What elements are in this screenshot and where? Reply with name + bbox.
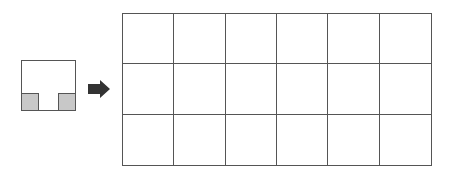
shaded-notch-bottom-right (58, 93, 75, 110)
grid-cell (123, 64, 174, 114)
grid-cell (277, 64, 328, 114)
grid-cell (174, 64, 225, 114)
grid-cell (277, 14, 328, 64)
grid-cell (123, 14, 174, 64)
grid-cell (174, 14, 225, 64)
grid-cell (174, 115, 225, 165)
grid-cell (226, 64, 277, 114)
grid-cell (226, 115, 277, 165)
grid-cell (277, 115, 328, 165)
grid-cell (380, 115, 431, 165)
grid-cell (328, 115, 379, 165)
grid-cell (123, 115, 174, 165)
grid-cell (226, 14, 277, 64)
grid-cell (328, 14, 379, 64)
grid-cell (328, 64, 379, 114)
right-arrow-icon (88, 80, 110, 98)
grid-cell (380, 14, 431, 64)
grid-cell (380, 64, 431, 114)
target-grid (122, 13, 432, 166)
tile-piece (21, 60, 76, 111)
shaded-notch-bottom-left (22, 93, 39, 110)
